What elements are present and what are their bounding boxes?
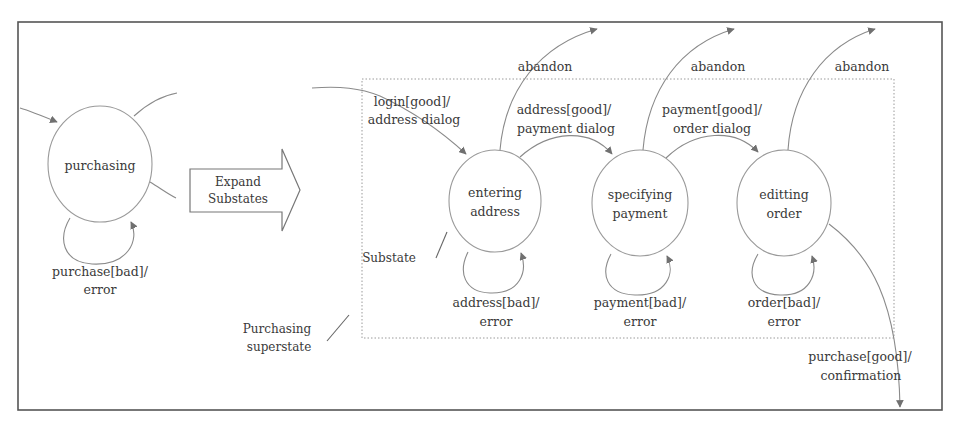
purchase-bad-action: error (84, 282, 117, 297)
purchase-good-label: purchase[good]/ (808, 349, 912, 364)
abandon-label-2: abandon (691, 59, 746, 74)
purchasing-outgoing-stub-top (134, 93, 177, 116)
expand-substates-arrow: Expand Substates (190, 149, 300, 231)
payment-bad-action: error (624, 314, 657, 329)
purchase-good-action: confirmation (821, 368, 902, 383)
editing-order-state[interactable]: editting order (737, 150, 831, 256)
superstate-pointer (327, 315, 349, 341)
address-good-label: address[good]/ (517, 102, 612, 117)
abandon-label-1: abandon (518, 59, 573, 74)
editing-order-abandon (788, 29, 875, 150)
expand-label-line2: Substates (208, 192, 268, 206)
entering-address-self-loop (463, 252, 523, 293)
payment-good-transition (666, 135, 758, 158)
specifying-payment-line2: payment (613, 206, 668, 221)
entering-address-line2: address (470, 204, 520, 219)
editing-order-self-loop (752, 254, 814, 295)
superstate-annotation-line1: Purchasing (243, 322, 312, 336)
purchasing-label: purchasing (65, 158, 136, 173)
order-bad-label: order[bad]/ (748, 295, 821, 310)
purchasing-outgoing-stub-bottom (150, 182, 176, 198)
editing-order-line1: editting (759, 187, 809, 202)
editing-order-line2: order (767, 206, 802, 221)
specifying-payment-state[interactable]: specifying payment (592, 150, 688, 256)
purchasing-incoming-arrow (20, 108, 57, 122)
purchase-bad-label: purchase[bad]/ (52, 264, 149, 279)
payment-good-label: payment[good]/ (662, 102, 763, 117)
purchasing-state[interactable]: purchasing (48, 106, 152, 222)
expand-label-line1: Expand (215, 175, 261, 189)
entering-address-line1: entering (468, 185, 522, 200)
purchasing-self-loop (64, 218, 134, 264)
specifying-payment-line1: specifying (608, 187, 673, 202)
address-good-action: payment dialog (517, 121, 615, 136)
login-action: address dialog (368, 112, 461, 127)
address-bad-action: error (480, 314, 513, 329)
superstate-annotation-line2: superstate (247, 340, 311, 354)
login-label: login[good]/ (374, 94, 451, 109)
substate-pointer (436, 232, 447, 258)
statechart-diagram: purchasing purchase[bad]/ error Expand S… (0, 0, 961, 424)
substate-annotation: Substate (362, 251, 416, 265)
address-bad-label: address[bad]/ (452, 295, 540, 310)
payment-bad-label: payment[bad]/ (594, 295, 687, 310)
entering-address-state[interactable]: entering address (449, 150, 541, 252)
address-good-transition (520, 136, 612, 157)
payment-good-action: order dialog (673, 121, 751, 136)
abandon-label-3: abandon (835, 59, 890, 74)
specifying-payment-self-loop (606, 254, 670, 295)
order-bad-action: error (768, 314, 801, 329)
